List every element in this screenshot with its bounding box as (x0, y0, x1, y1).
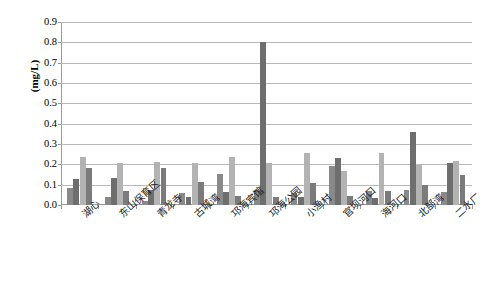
bar[interactable] (186, 197, 192, 205)
bar[interactable] (260, 42, 266, 205)
y-tick-label: 0.9 (5, 17, 57, 28)
y-tick-label: 0.3 (5, 139, 57, 150)
bar-group (435, 22, 472, 205)
bar[interactable] (223, 192, 229, 205)
y-tick-label: 0.7 (5, 58, 57, 69)
bar-group (248, 22, 285, 205)
bar[interactable] (105, 197, 111, 205)
bar-chart: (mg/L) 0.90.80.70.60.50.40.30.20.10.0 湖心… (0, 0, 484, 284)
bar-group (173, 22, 210, 205)
y-tick-label: 0.4 (5, 119, 57, 130)
bar[interactable] (266, 163, 272, 205)
bar[interactable] (80, 157, 86, 205)
bar[interactable] (453, 161, 459, 205)
bars-layer (61, 22, 472, 205)
bar[interactable] (111, 178, 117, 205)
bar[interactable] (447, 163, 453, 205)
bar-group (210, 22, 247, 205)
y-tick-label: 0.1 (5, 180, 57, 191)
y-tick-label: 0.6 (5, 78, 57, 89)
bar[interactable] (341, 171, 347, 205)
bar[interactable] (410, 132, 416, 205)
bar[interactable] (67, 188, 73, 205)
bar[interactable] (379, 153, 385, 205)
bar-group (98, 22, 135, 205)
bar-group (397, 22, 434, 205)
bar-group (61, 22, 98, 205)
y-axis-tick-labels: 0.90.80.70.60.50.40.30.20.10.0 (0, 22, 57, 205)
bar[interactable] (117, 163, 123, 205)
bar-group (285, 22, 322, 205)
y-tick-label: 0.5 (5, 98, 57, 109)
y-tick-label: 0.2 (5, 159, 57, 170)
bar[interactable] (73, 179, 79, 205)
bar[interactable] (304, 153, 310, 205)
y-tick-label: 0.0 (5, 200, 57, 211)
bar[interactable] (229, 157, 235, 205)
bar-group (360, 22, 397, 205)
x-axis-tick-labels: 湖心东山保育区青龙寺古城湾邛海宾馆邛海公园小渔村官坝河口海河口北部湾二水厂 (61, 209, 472, 284)
bar[interactable] (335, 158, 341, 205)
y-tick-label: 0.8 (5, 37, 57, 48)
bar-group (323, 22, 360, 205)
bar[interactable] (372, 198, 378, 205)
bar[interactable] (416, 165, 422, 205)
bar[interactable] (192, 163, 198, 205)
